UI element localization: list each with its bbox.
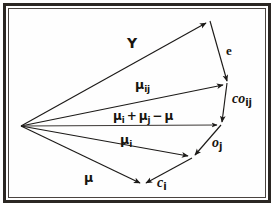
label-mu-i: μi bbox=[120, 134, 132, 149]
sum-vector bbox=[21, 125, 217, 126]
label-sum-mu-j-base: μ bbox=[139, 109, 148, 123]
label-sum-mu: μ bbox=[164, 109, 173, 123]
label-e: e bbox=[226, 44, 232, 57]
label-sum-plus-operator: + bbox=[125, 109, 139, 123]
label-co-ij-base: co bbox=[232, 91, 245, 106]
e-segment bbox=[210, 21, 227, 81]
label-sum-expression: μi+μj−μ bbox=[113, 110, 173, 124]
c-i-segment bbox=[146, 158, 192, 183]
label-sum-mu-i-base: μ bbox=[113, 109, 122, 123]
label-mu-i-base: μ bbox=[120, 132, 129, 147]
label-mu-ij-subscript: ij bbox=[144, 84, 150, 94]
co-ij-segment bbox=[222, 83, 227, 122]
label-sum-minus-operator: − bbox=[150, 109, 164, 123]
label-c-i-subscript: i bbox=[163, 181, 166, 192]
label-mu-ij: μij bbox=[135, 79, 150, 94]
label-co-ij: coij bbox=[232, 92, 252, 108]
label-mu-i-subscript: i bbox=[129, 139, 132, 149]
label-co-ij-subscript: ij bbox=[245, 97, 252, 108]
figure-container: Υ e μij coij μi+μj−μ μi oj μ ci bbox=[0, 0, 280, 211]
label-mu: μ bbox=[84, 172, 93, 185]
label-o-j-subscript: j bbox=[219, 141, 222, 152]
label-o-j: oj bbox=[212, 136, 222, 152]
label-c-i: ci bbox=[157, 176, 166, 192]
label-o-j-base: o bbox=[212, 135, 219, 150]
label-upsilon: Υ bbox=[127, 36, 137, 50]
mu-i-vector bbox=[21, 126, 188, 156]
label-mu-ij-base: μ bbox=[135, 77, 144, 92]
